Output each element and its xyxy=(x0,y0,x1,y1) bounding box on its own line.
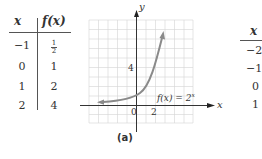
curve-left-arrow-icon xyxy=(97,100,104,105)
right-table-x-cell: 1 xyxy=(252,98,259,111)
right-table-x-cell: −2 xyxy=(246,44,262,57)
curve-up-arrow-icon xyxy=(160,31,166,40)
function-label-exponent: x xyxy=(191,91,195,98)
x-axis-label: x xyxy=(217,99,223,110)
right-table-header-rule xyxy=(240,40,262,41)
origin-label: 0 xyxy=(131,107,137,117)
x-tick-label-2: 2 xyxy=(151,107,157,117)
function-label: f(x) = 2x xyxy=(156,91,195,103)
right-table-header-x: x xyxy=(250,24,257,38)
grid xyxy=(89,20,193,123)
right-table-x-cell: −1 xyxy=(246,62,262,75)
x-axis-arrow-icon xyxy=(207,103,215,108)
right-table-x-cell: 0 xyxy=(252,80,259,93)
figure-caption: (a) xyxy=(117,132,133,143)
function-label-base: f(x) = 2 xyxy=(156,93,192,103)
y-tick-label-4: 4 xyxy=(128,63,134,73)
y-axis-label: y xyxy=(138,1,145,12)
